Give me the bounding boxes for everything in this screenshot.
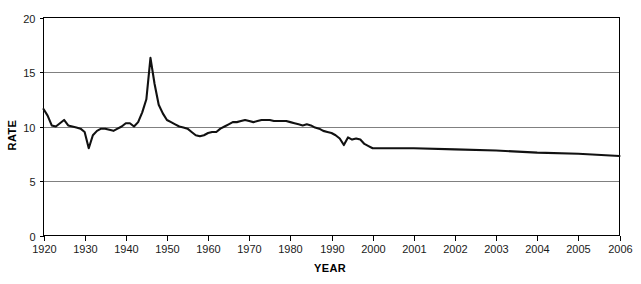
x-tick-label-1960: 1960 [196, 243, 220, 255]
chart-figure: 05101520 1920193019401950196019701980199… [0, 0, 641, 284]
y-axis-title: RATE [6, 120, 18, 151]
x-tick-label-2005: 2005 [566, 243, 590, 255]
x-axis-tick-labels-group: 1920193019401950196019701980199020002001… [32, 243, 632, 255]
chart-background [0, 0, 641, 284]
x-tick-label-2002: 2002 [443, 243, 467, 255]
x-tick-label-1920: 1920 [32, 243, 56, 255]
x-tick-label-2006: 2006 [608, 243, 632, 255]
x-tick-label-1990: 1990 [320, 243, 344, 255]
x-tick-label-2001: 2001 [402, 243, 426, 255]
x-tick-label-1950: 1950 [155, 243, 179, 255]
x-tick-label-1940: 1940 [114, 243, 138, 255]
y-tick-label-0: 0 [29, 231, 35, 243]
y-tick-label-5: 5 [29, 176, 35, 188]
x-tick-label-2000: 2000 [361, 243, 385, 255]
x-tick-label-2004: 2004 [525, 243, 549, 255]
line-chart: 05101520 1920193019401950196019701980199… [0, 0, 641, 284]
y-tick-label-10: 10 [23, 122, 35, 134]
y-tick-label-15: 15 [23, 67, 35, 79]
y-tick-label-20: 20 [23, 13, 35, 25]
x-tick-label-2003: 2003 [484, 243, 508, 255]
x-tick-label-1970: 1970 [237, 243, 261, 255]
x-tick-label-1980: 1980 [278, 243, 302, 255]
x-tick-label-1930: 1930 [73, 243, 97, 255]
x-axis-title: YEAR [314, 262, 346, 274]
